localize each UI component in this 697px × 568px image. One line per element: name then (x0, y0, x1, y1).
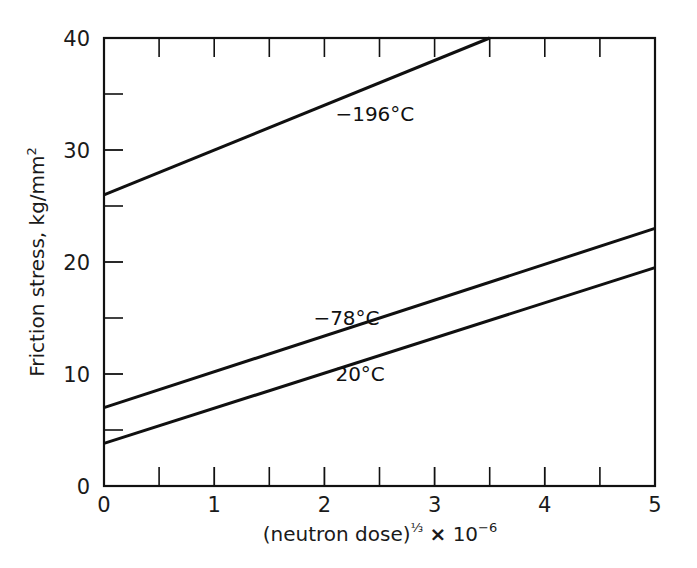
x-axis-title-times: × (430, 522, 447, 546)
x-axis-title-base: (neutron dose) (263, 522, 411, 546)
series-label-0: −196°C (335, 102, 414, 126)
y-axis-title-exponent: 2 (24, 147, 39, 155)
x-axis-title: (neutron dose)⅓ × 10−6 (263, 520, 498, 546)
y-tick-label: 30 (63, 139, 90, 163)
y-tick-label: 10 (63, 363, 90, 387)
x-tick-label: 5 (648, 493, 661, 517)
x-tick-label: 0 (97, 493, 110, 517)
x-tick-label: 3 (428, 493, 441, 517)
x-tick-label: 1 (208, 493, 221, 517)
x-tick-label: 4 (538, 493, 551, 517)
y-tick-label: 40 (63, 27, 90, 51)
svg-text:(neutron dose)⅓ × 10−6: (neutron dose)⅓ × 10−6 (263, 520, 498, 546)
x-axis-title-mantissa: 10 (453, 522, 478, 546)
y-axis-title: Friction stress, kg/mm2 (24, 147, 49, 377)
y-tick-label: 0 (77, 475, 90, 499)
series-label-1: −78°C (313, 306, 379, 330)
x-axis-title-exponent: ⅓ (411, 520, 424, 535)
y-axis-title-text: Friction stress, kg/mm (25, 155, 49, 376)
y-tick-label: 20 (63, 251, 90, 275)
friction-stress-line-chart: 010203040 012345 −196°C−78°C20°C Frictio… (0, 0, 697, 568)
x-tick-label: 2 (318, 493, 331, 517)
series-label-2: 20°C (335, 362, 384, 386)
chart-figure: 010203040 012345 −196°C−78°C20°C Frictio… (0, 0, 697, 568)
svg-text:Friction stress, kg/mm2: Friction stress, kg/mm2 (24, 147, 49, 377)
x-axis-title-power: −6 (478, 520, 497, 535)
